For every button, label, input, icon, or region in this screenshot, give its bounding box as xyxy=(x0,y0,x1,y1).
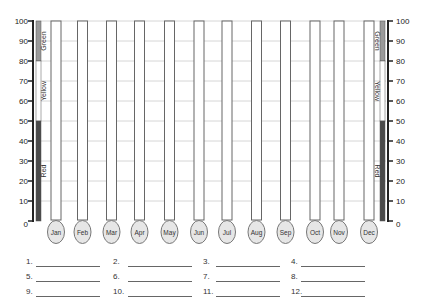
blank-number: 6. xyxy=(113,272,120,281)
month-label: May xyxy=(163,229,176,237)
month-label: Oct xyxy=(310,229,320,236)
blank-number: 12. xyxy=(291,287,302,296)
thermometer-jun: Jun xyxy=(191,21,208,244)
answer-blank-6[interactable]: 6. xyxy=(113,270,192,284)
tick-label: 50 xyxy=(19,117,28,126)
tube xyxy=(165,21,175,220)
tube xyxy=(194,21,204,220)
tick-label: 90 xyxy=(19,37,28,46)
thermometer-jan: Jan xyxy=(48,21,65,244)
answer-blank-11[interactable]: 11. xyxy=(203,285,280,299)
month-label: Jan xyxy=(51,229,62,236)
thermometer-oct: Oct xyxy=(307,21,324,244)
tick-label: 10 xyxy=(19,197,28,206)
blank-number: 1. xyxy=(26,257,33,266)
blank-line[interactable] xyxy=(301,266,365,267)
answer-blank-1[interactable]: 1. xyxy=(26,255,100,269)
blank-line[interactable] xyxy=(36,266,100,267)
thermometer-feb: Feb xyxy=(74,21,91,244)
tick-label: 20 xyxy=(19,177,28,186)
answer-blank-3[interactable]: 3. xyxy=(203,255,280,269)
blank-line[interactable] xyxy=(216,266,280,267)
month-thermometers: JanFebMarAprMayJunJulAugSepOctNovDec xyxy=(48,21,378,244)
tube xyxy=(281,21,291,220)
tick-label: 40 xyxy=(19,137,28,146)
answer-blank-5[interactable]: 5. xyxy=(26,270,100,284)
answer-blank-9[interactable]: 9. xyxy=(26,285,100,299)
tube xyxy=(78,21,88,220)
month-label: Nov xyxy=(333,229,345,236)
tick-label: 70 xyxy=(396,77,405,86)
answer-blank-10[interactable]: 10. xyxy=(113,285,192,299)
blank-line[interactable] xyxy=(36,281,100,282)
tick-label: 10 xyxy=(396,197,405,206)
tube xyxy=(51,21,61,220)
answer-blanks: 1.2.3.4.5.6.7.8.9.10.11.12. xyxy=(0,255,422,299)
tube xyxy=(135,21,145,220)
tick-label: 20 xyxy=(396,177,405,186)
zone-label-green: Green xyxy=(374,31,381,51)
answer-blank-4[interactable]: 4. xyxy=(291,255,365,269)
right-axis: GreenYellowRed0102030405060708090100 xyxy=(374,17,410,229)
blank-number: 8. xyxy=(291,272,298,281)
month-label: Feb xyxy=(77,229,89,236)
blank-line[interactable] xyxy=(301,281,365,282)
tick-label: 60 xyxy=(396,97,405,106)
thermometer-aug: Aug xyxy=(248,21,265,244)
answer-blank-12[interactable]: 12. xyxy=(291,285,365,299)
blank-number: 5. xyxy=(26,272,33,281)
blank-number: 2. xyxy=(113,257,120,266)
month-label: Jun xyxy=(194,229,205,236)
month-label: Aug xyxy=(251,229,263,237)
blank-number: 7. xyxy=(203,272,210,281)
answer-blank-2[interactable]: 2. xyxy=(113,255,192,269)
tick-label: 100 xyxy=(396,17,410,26)
blank-line[interactable] xyxy=(216,296,280,297)
tick-label: 80 xyxy=(396,57,405,66)
blank-line[interactable] xyxy=(301,296,365,297)
tube xyxy=(222,21,232,220)
thermometer-mar: Mar xyxy=(103,21,120,244)
zone-label-green: Green xyxy=(40,31,47,51)
tick-label: 80 xyxy=(19,57,28,66)
month-label: Sep xyxy=(280,229,292,237)
tube xyxy=(310,21,320,220)
blank-number: 3. xyxy=(203,257,210,266)
tick-label: 100 xyxy=(15,17,29,26)
tick-label: 70 xyxy=(19,77,28,86)
blank-number: 11. xyxy=(203,287,214,296)
answer-blank-7[interactable]: 7. xyxy=(203,270,280,284)
month-label: Jul xyxy=(223,229,232,236)
tick-label: 50 xyxy=(396,117,405,126)
thermometer-apr: Apr xyxy=(131,21,148,244)
zone-label-red: Red xyxy=(40,164,47,177)
left-axis: GreenYellowRed0102030405060708090100 xyxy=(15,17,47,229)
blank-line[interactable] xyxy=(216,281,280,282)
answer-blank-8[interactable]: 8. xyxy=(291,270,365,284)
tick-label: 30 xyxy=(19,157,28,166)
month-label: Mar xyxy=(106,229,118,236)
tube xyxy=(364,21,374,220)
thermometer-dec: Dec xyxy=(361,21,378,244)
tick-label: 90 xyxy=(396,37,405,46)
tick-label: 0 xyxy=(24,220,29,229)
tick-label: 0 xyxy=(396,220,401,229)
blank-number: 9. xyxy=(26,287,33,296)
tick-label: 30 xyxy=(396,157,405,166)
tube xyxy=(334,21,344,220)
thermometer-nov: Nov xyxy=(331,21,348,244)
blank-number: 10. xyxy=(113,287,124,296)
blank-line[interactable] xyxy=(128,281,192,282)
blank-line[interactable] xyxy=(128,296,192,297)
blank-line[interactable] xyxy=(128,266,192,267)
blank-line[interactable] xyxy=(36,296,100,297)
thermometer-jul: Jul xyxy=(219,21,236,244)
tick-label: 40 xyxy=(396,137,405,146)
zone-label-red: Red xyxy=(374,165,381,178)
zone-label-yellow: Yellow xyxy=(40,80,47,101)
tube xyxy=(107,21,117,220)
zone-label-yellow: Yellow xyxy=(374,81,381,102)
month-label: Apr xyxy=(134,229,145,237)
thermometer-may: May xyxy=(161,21,178,244)
thermometer-sep: Sep xyxy=(277,21,294,244)
